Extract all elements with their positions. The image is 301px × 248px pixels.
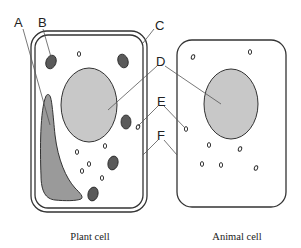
cell-diagram: A B C D E F Plant cell Animal cell xyxy=(0,0,301,248)
caption-plant-cell: Plant cell xyxy=(70,231,109,242)
label-E: E xyxy=(157,94,166,109)
chloroplast xyxy=(121,115,131,129)
label-D: D xyxy=(156,54,165,69)
animal-nucleus xyxy=(204,69,258,139)
label-B: B xyxy=(38,15,47,30)
caption-animal-cell: Animal cell xyxy=(212,231,261,242)
label-F: F xyxy=(157,128,165,143)
plant-nucleus xyxy=(61,68,117,142)
label-C: C xyxy=(155,18,164,33)
label-A: A xyxy=(14,15,23,30)
